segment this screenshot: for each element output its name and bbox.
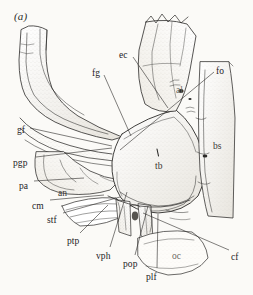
label-ptp: ptp bbox=[67, 237, 79, 247]
label-fo: fo bbox=[216, 67, 224, 77]
label-plf: plf bbox=[146, 273, 157, 283]
label-fg: fg bbox=[92, 69, 100, 79]
label-gf: gf bbox=[17, 126, 25, 136]
figure-container: (a) ecfgfoalbsgfpgppaancmstftbptpvphpopp… bbox=[0, 0, 253, 295]
label-al: al bbox=[176, 86, 183, 96]
label-cm: cm bbox=[32, 202, 44, 212]
label-ec: ec bbox=[119, 51, 128, 61]
label-pgp: pgp bbox=[13, 159, 28, 169]
label-cf: cf bbox=[231, 253, 239, 263]
label-tb: tb bbox=[155, 162, 163, 172]
label-vph: vph bbox=[96, 252, 111, 262]
panel-letter: (a) bbox=[14, 10, 27, 22]
label-pa: pa bbox=[19, 182, 28, 192]
label-an: an bbox=[58, 189, 67, 199]
label-stf: stf bbox=[47, 216, 57, 226]
label-bs: bs bbox=[213, 142, 222, 152]
label-oc: oc bbox=[172, 252, 181, 262]
label-pop: pop bbox=[123, 260, 138, 270]
